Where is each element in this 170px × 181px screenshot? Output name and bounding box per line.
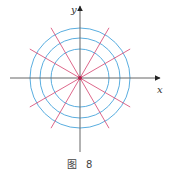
y-axis-label: y [70, 4, 77, 15]
ray-210deg [30, 78, 80, 107]
figure-caption: 图 8 [0, 156, 162, 171]
x-axis-label: x [157, 84, 163, 95]
ray-60deg [80, 28, 109, 78]
ray-300deg [80, 78, 109, 128]
origin-point [78, 76, 82, 80]
ray-240deg [51, 78, 80, 128]
ray-120deg [51, 28, 80, 78]
ray-150deg [30, 49, 80, 78]
ray-30deg [80, 49, 130, 78]
ray-330deg [80, 78, 130, 107]
polar-grid-diagram: x y [0, 0, 170, 181]
